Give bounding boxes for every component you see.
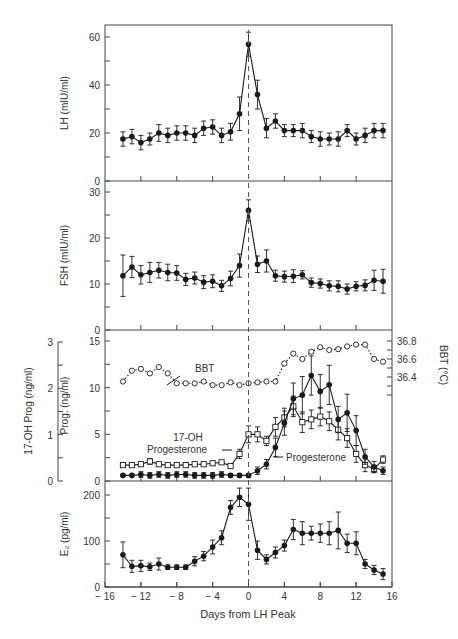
lh-panel: 0204060LH (mIU/ml) [59, 32, 392, 187]
data-point [300, 392, 306, 398]
data-point [174, 270, 180, 276]
data-point [282, 274, 288, 280]
data-point [156, 561, 162, 567]
data-point [380, 468, 386, 474]
data-point [192, 462, 197, 467]
annotation-progesterone: Progesterone [286, 452, 346, 463]
data-point [309, 417, 314, 422]
data-point [264, 379, 269, 384]
data-point [300, 356, 305, 361]
secondary-y-axis-label: 17-OH Prog (ng/ml) [23, 367, 34, 454]
data-point [210, 473, 216, 479]
data-point [219, 383, 224, 388]
data-point [282, 128, 288, 134]
data-point [380, 278, 386, 284]
data-point [138, 472, 144, 478]
data-point [165, 463, 170, 468]
secondary-y-tick-label: 1 [47, 430, 53, 441]
data-point [201, 379, 206, 384]
data-point [282, 420, 288, 426]
y-axis-label: Prog. (ng/ml) [59, 377, 70, 435]
data-point [362, 283, 368, 289]
data-point [273, 424, 278, 429]
y-axis-label: FSH (mIU/ml) [59, 225, 70, 286]
data-point [219, 472, 225, 478]
data-point [165, 564, 171, 570]
data-point [300, 272, 306, 278]
data-point [380, 128, 386, 134]
data-point [156, 365, 161, 370]
bbt-tick-label: 36.8 [397, 336, 417, 347]
data-point [219, 283, 225, 289]
data-point [255, 261, 261, 267]
data-point [183, 277, 189, 283]
data-point [237, 263, 243, 269]
data-point [156, 130, 162, 136]
data-point [165, 473, 171, 479]
data-point [300, 128, 306, 134]
data-point [326, 283, 332, 289]
data-point [138, 563, 144, 569]
data-point [201, 473, 207, 479]
data-point [335, 417, 341, 423]
y-tick-label: 5 [94, 429, 100, 440]
data-point [300, 530, 306, 536]
data-point [192, 473, 198, 479]
data-point [174, 130, 180, 136]
data-point [201, 279, 207, 285]
data-point [335, 136, 341, 142]
data-point [318, 345, 323, 350]
data-point [264, 557, 270, 563]
data-point [264, 125, 270, 131]
data-point [317, 389, 323, 395]
data-point [165, 270, 171, 276]
data-point [362, 454, 368, 460]
data-point [228, 505, 234, 511]
y-tick-label: 15 [89, 336, 101, 347]
data-point [174, 564, 180, 570]
data-point [228, 380, 233, 385]
data-point [344, 410, 350, 416]
data-point [147, 473, 153, 479]
data-point [138, 272, 144, 278]
data-point [371, 278, 377, 284]
data-point [345, 344, 350, 349]
y-tick-label: 10 [89, 279, 101, 290]
data-point [174, 381, 179, 386]
bbt-annotation: BBT [195, 363, 214, 374]
lh-series-line [123, 44, 383, 142]
secondary-y-tick-label: 2 [47, 383, 53, 394]
data-point [129, 134, 135, 140]
data-point [362, 561, 368, 567]
data-point [354, 342, 359, 347]
x-axis-tick-label: 16 [386, 591, 398, 602]
data-point [353, 428, 359, 434]
data-point [228, 276, 234, 282]
data-point [129, 473, 135, 479]
y-tick-label: 0 [94, 176, 100, 187]
data-point [138, 140, 144, 146]
data-point [147, 564, 153, 570]
data-point [129, 564, 135, 570]
data-point [147, 136, 153, 142]
data-point [353, 541, 359, 547]
data-point [237, 451, 242, 456]
data-point [282, 543, 288, 549]
fsh-series-line [123, 210, 383, 289]
data-point [354, 451, 359, 456]
data-point [201, 462, 206, 467]
x-axis-tick-label: 12 [351, 591, 363, 602]
data-point [264, 461, 270, 467]
data-point [371, 356, 376, 361]
data-point [335, 528, 341, 534]
data-point [344, 286, 350, 292]
data-point [362, 133, 368, 139]
data-point [219, 460, 224, 465]
data-point [255, 380, 260, 385]
data-point [308, 530, 314, 536]
data-point [120, 463, 125, 468]
data-point [228, 473, 234, 479]
data-point [183, 472, 189, 478]
data-point [326, 530, 332, 536]
data-point [192, 381, 197, 386]
